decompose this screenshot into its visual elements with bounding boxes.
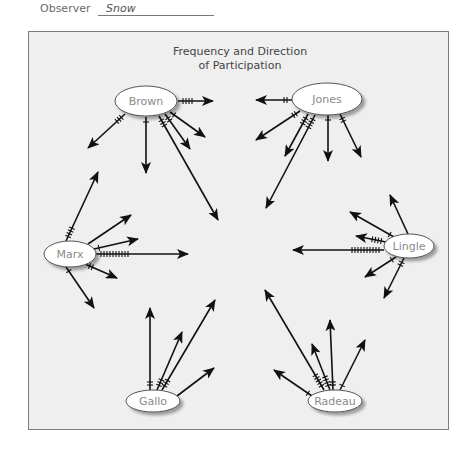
arrow-from-gallo xyxy=(177,368,214,396)
tally-mark xyxy=(375,237,376,243)
arrow-from-marx xyxy=(94,239,138,251)
arrow-from-lingle xyxy=(365,257,396,277)
participant-node-marx: Marx xyxy=(44,241,96,267)
participant-label: Gallo xyxy=(139,395,167,408)
tally-mark xyxy=(372,236,373,242)
arrow-from-jones xyxy=(256,97,292,103)
participant-node-lingle: Lingle xyxy=(384,234,434,258)
arrow-from-radeau xyxy=(312,344,331,390)
tally-mark xyxy=(381,238,382,244)
participant-label: Lingle xyxy=(393,240,426,253)
participant-label: Radeau xyxy=(314,395,356,408)
arrow-from-marx xyxy=(88,215,131,244)
arrow-from-gallo xyxy=(162,300,215,390)
participant-node-radeau: Radeau xyxy=(308,390,362,412)
arrow-from-marx xyxy=(65,172,98,241)
arrow-from-lingle xyxy=(350,212,394,237)
arrow-from-brown xyxy=(178,98,213,104)
arrow-from-brown xyxy=(143,117,149,173)
participant-label: Brown xyxy=(129,95,164,108)
arrow-from-marx xyxy=(66,267,94,308)
arrow-from-marx xyxy=(96,251,188,257)
tally-mark xyxy=(378,237,379,243)
arrow-from-radeau xyxy=(340,340,365,390)
arrow-from-brown xyxy=(88,114,125,148)
arrow-from-brown xyxy=(159,116,218,220)
tally-mark xyxy=(98,245,99,251)
participant-node-gallo: Gallo xyxy=(126,390,180,412)
arrow-from-radeau xyxy=(265,290,324,390)
arrow-from-lingle xyxy=(356,236,386,244)
arrow-from-radeau xyxy=(274,370,312,396)
arrow-from-brown xyxy=(170,112,205,137)
participant-label: Jones xyxy=(311,93,342,106)
arrow-from-lingle xyxy=(390,195,408,234)
participant-label: Marx xyxy=(57,248,84,261)
arrow-from-lingle xyxy=(384,258,404,298)
arrow-from-brown xyxy=(165,114,190,149)
arrow-from-jones xyxy=(256,111,300,140)
participant-node-brown: Brown xyxy=(115,86,177,116)
arrow-from-jones xyxy=(339,114,361,157)
arrow-from-gallo xyxy=(147,308,153,390)
arrows-layer xyxy=(65,97,408,396)
participation-diagram: BrownJonesMarxLingleGalloRadeau xyxy=(0,0,474,453)
arrow-from-marx xyxy=(85,263,117,278)
arrow-from-radeau xyxy=(330,320,336,390)
arrow-from-lingle xyxy=(293,247,384,253)
participant-node-jones: Jones xyxy=(292,83,362,115)
arrow-from-jones xyxy=(325,115,331,161)
